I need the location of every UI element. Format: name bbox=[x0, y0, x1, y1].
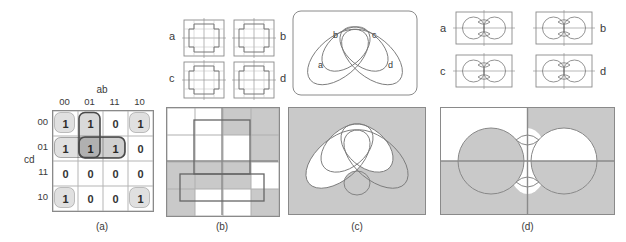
c-set-label-c: c bbox=[372, 30, 377, 40]
karnaugh-map-grid: 1101111000001001 bbox=[52, 110, 154, 212]
kmap-row-header: 00 bbox=[30, 116, 48, 128]
d-variable-map-c bbox=[453, 52, 515, 90]
d-variable-map-d bbox=[533, 52, 595, 90]
kmap-cell: 1 bbox=[78, 111, 103, 136]
b-function-map bbox=[166, 107, 280, 217]
kmap-row-header: 01 bbox=[30, 141, 48, 153]
b-map-cell bbox=[195, 108, 223, 135]
caption-a: (a) bbox=[52, 221, 152, 232]
caption-d: (d) bbox=[440, 221, 615, 232]
kmap-cell: 1 bbox=[103, 136, 128, 161]
b-map-cell bbox=[167, 189, 195, 216]
c-set-label-b: b bbox=[333, 30, 338, 40]
c-set-label-d: d bbox=[388, 60, 393, 70]
kmap-col-header: 01 bbox=[77, 96, 102, 107]
b-map-cell bbox=[167, 108, 195, 135]
b-label-b: b bbox=[280, 30, 286, 42]
kmap-row-header: 11 bbox=[30, 166, 48, 178]
kmap-cell: 1 bbox=[53, 111, 78, 136]
d-function-diagram bbox=[440, 107, 615, 215]
d-variable-map-b bbox=[533, 9, 595, 47]
b-map-cell bbox=[251, 162, 279, 189]
c-gray-lens bbox=[344, 171, 370, 195]
kmap-cell: 1 bbox=[128, 111, 153, 136]
b-variable-map-a bbox=[182, 18, 226, 58]
b-map-cell bbox=[167, 135, 195, 162]
b-map-cell bbox=[167, 162, 195, 189]
caption-c: (c) bbox=[288, 221, 426, 232]
b-variable-map-b bbox=[232, 18, 276, 58]
kmap-cell: 0 bbox=[78, 186, 103, 211]
c-venn-outline-diagram: a b c d bbox=[292, 10, 418, 96]
kmap-cell: 1 bbox=[128, 186, 153, 211]
kmap-cell: 1 bbox=[78, 136, 103, 161]
d-label-a: a bbox=[440, 22, 446, 34]
figure-canvas: ab 00011110 00011110 cd 1101111000001001… bbox=[0, 0, 626, 242]
b-map-cell bbox=[223, 189, 251, 216]
kmap-col-header: 10 bbox=[127, 96, 152, 107]
d-label-b: b bbox=[600, 22, 606, 34]
kmap-cell: 1 bbox=[53, 186, 78, 211]
kmap-ab-label: ab bbox=[52, 84, 152, 95]
b-map-cell bbox=[223, 135, 251, 162]
b-variable-map-d bbox=[232, 60, 276, 100]
b-map-cell bbox=[223, 162, 251, 189]
d-label-c: c bbox=[440, 65, 446, 77]
kmap-cell: 1 bbox=[53, 136, 78, 161]
kmap-cell: 0 bbox=[53, 161, 78, 186]
b-map-cell bbox=[195, 135, 223, 162]
kmap-cell: 0 bbox=[103, 186, 128, 211]
kmap-cell: 0 bbox=[78, 161, 103, 186]
b-map-cell bbox=[195, 189, 223, 216]
b-map-cell bbox=[251, 189, 279, 216]
kmap-cd-label: cd bbox=[24, 154, 35, 165]
d-label-d: d bbox=[600, 65, 606, 77]
kmap-col-header: 00 bbox=[52, 96, 77, 107]
b-map-cell bbox=[251, 108, 279, 135]
b-label-d: d bbox=[280, 72, 286, 84]
kmap-col-header: 11 bbox=[102, 96, 127, 107]
kmap-cell: 0 bbox=[103, 111, 128, 136]
b-map-cell bbox=[195, 162, 223, 189]
kmap-cell: 0 bbox=[128, 161, 153, 186]
b-map-cell bbox=[251, 135, 279, 162]
c-venn-shaded-diagram bbox=[288, 107, 426, 215]
caption-b: (b) bbox=[166, 221, 278, 232]
b-variable-map-c bbox=[182, 60, 226, 100]
kmap-cell: 0 bbox=[103, 161, 128, 186]
kmap-cell: 0 bbox=[128, 136, 153, 161]
kmap-row-header: 10 bbox=[30, 191, 48, 203]
b-label-a: a bbox=[169, 30, 175, 42]
d-variable-map-a bbox=[453, 9, 515, 47]
b-map-cell bbox=[223, 108, 251, 135]
b-label-c: c bbox=[169, 72, 175, 84]
c-set-label-a: a bbox=[318, 60, 323, 70]
